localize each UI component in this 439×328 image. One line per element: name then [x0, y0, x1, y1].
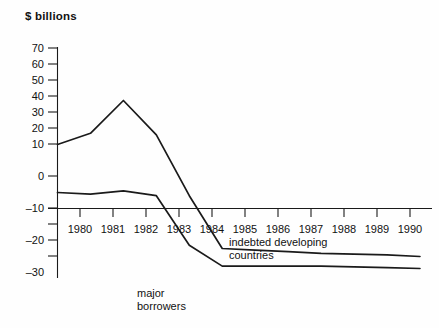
annotation-major-line2: borrowers: [137, 300, 186, 313]
annotation-major-line1: major: [137, 287, 186, 300]
chart-plot-svg: [0, 0, 439, 328]
line-series-indebted-developing-countries: [58, 101, 420, 257]
x-axis-ticks: [80, 209, 410, 217]
chart-container: $ billions 70 60 50 40 30 20 10 0 –10 –2…: [0, 0, 439, 328]
annotation-indebted-developing-countries: indebted developing countries: [229, 236, 327, 262]
annotation-indebted-line2: countries: [229, 249, 327, 262]
annotation-indebted-line1: indebted developing: [229, 236, 327, 249]
y-axis-ticks: [48, 48, 57, 256]
annotation-major-borrowers: major borrowers: [137, 287, 186, 313]
